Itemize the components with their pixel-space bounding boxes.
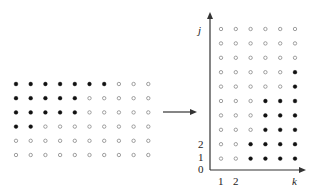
- hollow-dot: [147, 82, 150, 85]
- y-axis-label: j: [198, 25, 201, 36]
- filled-dot: [264, 142, 268, 146]
- hollow-dot: [219, 128, 222, 131]
- hollow-dot: [279, 27, 282, 30]
- hollow-dot: [234, 157, 237, 160]
- hollow-dot: [132, 82, 135, 85]
- filled-dot: [73, 82, 77, 86]
- hollow-dot: [117, 82, 120, 85]
- filled-dot: [293, 157, 297, 161]
- hollow-dot: [58, 139, 61, 142]
- hollow-dot: [147, 97, 150, 100]
- hollow-dot: [103, 153, 106, 156]
- filled-dot: [293, 142, 297, 146]
- hollow-dot: [147, 111, 150, 114]
- hollow-dot: [234, 42, 237, 45]
- hollow-dot: [88, 139, 91, 142]
- hollow-dot: [29, 153, 32, 156]
- filled-dot: [88, 82, 92, 86]
- hollow-dot: [234, 56, 237, 59]
- filled-dot: [58, 82, 62, 86]
- filled-dot: [264, 99, 268, 103]
- hollow-dot: [117, 97, 120, 100]
- hollow-dot: [88, 125, 91, 128]
- filled-dot: [29, 125, 33, 129]
- hollow-dot: [234, 99, 237, 102]
- hollow-dot: [73, 125, 76, 128]
- hollow-dot: [219, 71, 222, 74]
- filled-dot: [14, 96, 18, 100]
- y-tick-1: 1: [198, 152, 204, 163]
- hollow-dot: [264, 71, 267, 74]
- transform-arrow: [163, 109, 197, 115]
- hollow-dot: [234, 128, 237, 131]
- filled-dot: [102, 82, 106, 86]
- j-k-axes: [207, 12, 306, 173]
- hollow-dot: [293, 56, 296, 59]
- hollow-dot: [219, 99, 222, 102]
- hollow-dot: [249, 42, 252, 45]
- hollow-dot: [58, 153, 61, 156]
- hollow-dot: [219, 56, 222, 59]
- hollow-dot: [219, 42, 222, 45]
- hollow-dot: [147, 139, 150, 142]
- filled-dot: [264, 114, 268, 118]
- hollow-dot: [58, 125, 61, 128]
- hollow-dot: [132, 153, 135, 156]
- filled-dot: [29, 82, 33, 86]
- hollow-dot: [293, 42, 296, 45]
- filled-dot: [44, 82, 48, 86]
- filled-dot: [73, 96, 77, 100]
- filled-dot: [293, 99, 297, 103]
- y-tick-2: 2: [198, 139, 204, 150]
- filled-dot: [14, 125, 18, 129]
- hollow-dot: [249, 128, 252, 131]
- filled-dot: [29, 96, 33, 100]
- filled-dot: [58, 111, 62, 115]
- filled-dot: [44, 111, 48, 115]
- hollow-dot: [234, 114, 237, 117]
- hollow-dot: [279, 56, 282, 59]
- hollow-dot: [88, 153, 91, 156]
- hollow-dot: [249, 114, 252, 117]
- hollow-dot: [293, 27, 296, 30]
- x-axis-label: k: [292, 176, 297, 187]
- left-dot-grid: [14, 82, 150, 157]
- hollow-dot: [103, 97, 106, 100]
- hollow-dot: [264, 27, 267, 30]
- filled-dot: [293, 114, 297, 118]
- hollow-dot: [249, 99, 252, 102]
- hollow-dot: [249, 71, 252, 74]
- x-tick-2: 2: [233, 176, 239, 187]
- hollow-dot: [234, 143, 237, 146]
- hollow-dot: [44, 125, 47, 128]
- hollow-dot: [234, 71, 237, 74]
- x-tick-1: 1: [218, 176, 224, 187]
- filled-dot: [249, 157, 253, 161]
- hollow-dot: [103, 125, 106, 128]
- hollow-dot: [264, 85, 267, 88]
- hollow-dot: [117, 153, 120, 156]
- hollow-dot: [29, 139, 32, 142]
- hollow-dot: [132, 111, 135, 114]
- hollow-dot: [73, 139, 76, 142]
- hollow-dot: [279, 42, 282, 45]
- y-tick-0: 0: [198, 164, 204, 175]
- filled-dot: [58, 96, 62, 100]
- filled-dot: [293, 85, 297, 89]
- filled-dot: [14, 82, 18, 86]
- filled-dot: [278, 157, 282, 161]
- hollow-dot: [103, 139, 106, 142]
- hollow-dot: [44, 139, 47, 142]
- filled-dot: [278, 128, 282, 132]
- filled-dot: [44, 96, 48, 100]
- filled-dot: [29, 111, 33, 115]
- hollow-dot: [132, 125, 135, 128]
- hollow-dot: [219, 114, 222, 117]
- filled-dot: [14, 111, 18, 115]
- hollow-dot: [264, 56, 267, 59]
- filled-dot: [73, 111, 77, 115]
- hollow-dot: [132, 139, 135, 142]
- hollow-dot: [219, 143, 222, 146]
- hollow-dot: [73, 153, 76, 156]
- hollow-dot: [219, 85, 222, 88]
